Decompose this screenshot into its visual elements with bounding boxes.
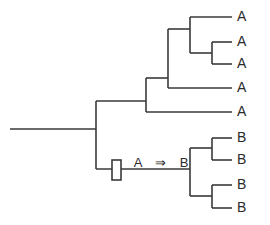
state-change-to-label: B (180, 155, 189, 170)
tip-label-b-4: B (237, 199, 246, 215)
tip-label-b-3: B (237, 176, 246, 192)
tree-canvas: A ⇒ B A A A A A B B B B (0, 0, 270, 225)
tip-label-b-1: B (237, 129, 246, 145)
state-change-from-label: A (134, 155, 143, 170)
phylogenetic-tree-figure: A ⇒ B A A A A A B B B B (0, 0, 270, 225)
tip-label-a-4: A (237, 79, 247, 95)
tip-label-a-1: A (237, 8, 247, 24)
tip-label-a-3: A (237, 55, 247, 71)
tip-label-a-5: A (237, 103, 247, 119)
tip-label-b-2: B (237, 151, 246, 167)
state-change-box (112, 160, 121, 180)
tip-label-a-2: A (237, 33, 247, 49)
state-change-arrow-icon: ⇒ (155, 155, 166, 170)
